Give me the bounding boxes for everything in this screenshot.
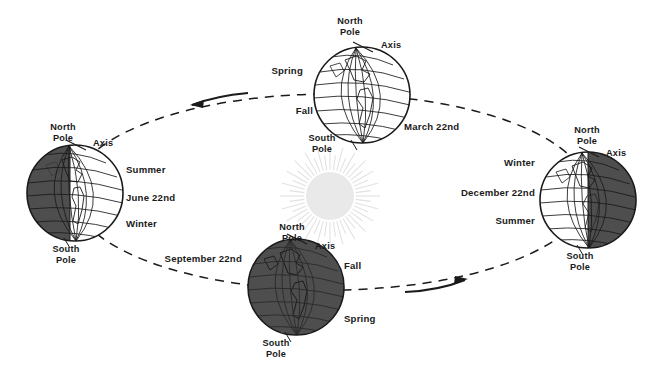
- june-date-label: June 22nd: [126, 192, 175, 203]
- september-date-label: September 22nd: [165, 253, 242, 264]
- december-south-pole-label-line1: South: [566, 251, 593, 261]
- december-north-pole-label-line1: North: [574, 125, 600, 135]
- march-south-pole-label-line1: South: [308, 133, 335, 143]
- march-axis-label: Axis: [381, 40, 401, 50]
- june-south-pole-label-line1: South: [52, 244, 79, 254]
- june-north-pole-label-line2: Pole: [53, 133, 73, 143]
- september-north-pole-label-line1: North: [279, 222, 305, 232]
- march-north-pole-label-line1: North: [337, 16, 363, 26]
- december-axis-label: Axis: [606, 148, 626, 158]
- december-season-upper-label: Winter: [504, 157, 535, 168]
- june-north-pole-label-line1: North: [50, 122, 76, 132]
- december-south-pole-label-line2: Pole: [570, 262, 590, 272]
- march-south-pole-label-line2: Pole: [312, 144, 332, 154]
- december-north-pole-label-line2: Pole: [577, 136, 597, 146]
- globe-december: [540, 147, 636, 255]
- march-season-lower-label: Fall: [296, 105, 313, 116]
- march-date-label: March 22nd: [404, 121, 459, 132]
- sun-ray: [333, 155, 335, 170]
- sun-ray: [356, 191, 371, 193]
- september-south-pole-label-line1: South: [262, 338, 289, 348]
- sun-ray: [333, 222, 335, 237]
- sun-ray: [325, 155, 327, 170]
- september-season-upper-label: Fall: [344, 260, 361, 271]
- sun-disc: [306, 172, 354, 220]
- sun-ray: [289, 191, 304, 193]
- globe-june: [27, 140, 123, 248]
- june-axis-label: Axis: [93, 138, 113, 148]
- september-season-lower-label: Spring: [344, 313, 376, 324]
- june-season-lower-label: Winter: [126, 218, 157, 229]
- seasons-diagram: North Pole Axis Summer June 22nd Winter …: [0, 0, 658, 380]
- sun-ray: [325, 222, 327, 237]
- september-north-pole-label-line2: Pole: [282, 233, 302, 243]
- december-date-label: December 22nd: [461, 187, 535, 198]
- september-axis-label: Axis: [315, 241, 335, 251]
- sun-ray: [356, 199, 371, 201]
- june-season-upper-label: Summer: [126, 164, 166, 175]
- december-season-lower-label: Summer: [495, 215, 535, 226]
- march-season-upper-label: Spring: [271, 65, 303, 76]
- march-north-pole-label-line2: Pole: [340, 27, 360, 37]
- june-south-pole-label-line2: Pole: [56, 255, 76, 265]
- september-south-pole-label-line2: Pole: [266, 349, 286, 359]
- sun-ray: [289, 199, 304, 201]
